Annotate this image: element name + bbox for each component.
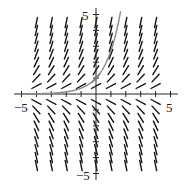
slope-segment	[78, 106, 85, 114]
slope-segment	[62, 84, 71, 89]
x-tick-label-5: 5	[166, 100, 173, 115]
slope-segment	[63, 74, 70, 82]
slope-segment	[48, 74, 55, 82]
slope-segment	[62, 100, 71, 105]
slope-segment	[33, 106, 40, 114]
slope-segment	[47, 100, 56, 105]
y-tick-label-5: 5	[82, 8, 89, 23]
slope-segment	[136, 84, 145, 89]
slope-segment	[106, 100, 115, 105]
slope-segment	[33, 74, 40, 82]
slope-segment	[122, 74, 129, 82]
slope-segment	[77, 100, 86, 105]
slope-segment	[136, 100, 145, 105]
slope-segment	[137, 74, 144, 82]
slope-segment	[121, 84, 130, 89]
slope-segment	[121, 100, 130, 105]
slope-segment	[137, 106, 144, 114]
slope-segment	[32, 84, 41, 89]
slope-segment	[32, 100, 41, 105]
slope-field-chart: −5 5 5 −5	[0, 0, 188, 189]
slope-segment	[63, 106, 70, 114]
slope-segment	[122, 106, 129, 114]
x-tick-label-neg5: −5	[14, 100, 28, 115]
slope-segment	[151, 84, 160, 89]
slope-segment	[106, 84, 115, 89]
slope-segment	[107, 74, 114, 82]
slope-segment	[152, 74, 159, 82]
slope-segment	[152, 106, 159, 114]
y-tick-label-neg5: −5	[76, 168, 90, 183]
slope-segment	[78, 74, 85, 82]
slope-segment	[151, 100, 160, 105]
slope-segment	[47, 84, 56, 89]
slope-segment	[48, 106, 55, 114]
slope-segment	[107, 106, 114, 114]
